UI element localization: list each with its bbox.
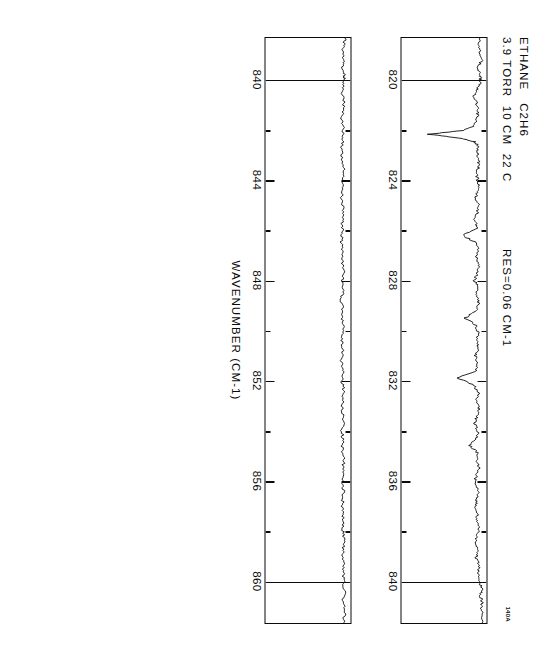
tick-label: 860	[250, 571, 262, 591]
tick-label: 852	[250, 370, 262, 390]
tick-label: 820	[386, 69, 398, 89]
plot-area-bottom	[265, 38, 350, 623]
sample-name-label: ETHANE C2H6	[517, 37, 529, 137]
tick-label: 856	[250, 471, 262, 491]
annotation-block: ETHANE C2H6 3.9 TORR 10 CM 22 C RES=0.06…	[491, 37, 531, 624]
tick-label: 840	[250, 69, 262, 89]
tick-label: 840	[386, 571, 398, 591]
spectrum-panel-top	[400, 37, 487, 624]
resolution-label: RES=0.06 CM-1	[500, 249, 512, 347]
tick-label: 832	[386, 370, 398, 390]
tick-label: 844	[250, 170, 262, 190]
tick-label: 828	[386, 270, 398, 290]
spectrum-trace-bottom	[265, 38, 350, 623]
tick-label-row-bottom: 840844848852856860	[242, 37, 262, 624]
spectrum-trace-top	[401, 38, 486, 623]
plot-stack: ETHANE C2H6 3.9 TORR 10 CM 22 C RES=0.06…	[0, 0, 549, 662]
spectrum-panel-bottom	[264, 37, 351, 624]
spectrum-figure: ETHANE C2H6 3.9 TORR 10 CM 22 C RES=0.06…	[0, 0, 549, 662]
x-axis-title: WAVENUMBER (CM-1)	[229, 37, 241, 624]
tick-label: 848	[250, 270, 262, 290]
scan-id-label: 140A	[504, 606, 510, 622]
plot-area-top	[401, 38, 486, 623]
tick-label-row-top: 820824828832836840	[378, 37, 398, 624]
sample-conditions-label: 3.9 TORR 10 CM 22 C	[500, 37, 512, 182]
tick-label: 824	[386, 170, 398, 190]
tick-label: 836	[386, 471, 398, 491]
